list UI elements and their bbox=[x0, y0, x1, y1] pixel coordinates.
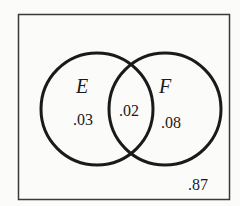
value-outside: .87 bbox=[188, 176, 208, 193]
value-intersection: .02 bbox=[119, 102, 139, 119]
value-f-only: .08 bbox=[161, 114, 181, 131]
value-e-only: .03 bbox=[73, 111, 93, 128]
set-label-e: E bbox=[75, 75, 88, 97]
set-label-f: F bbox=[158, 75, 172, 97]
venn-diagram: E F .03 .02 .08 .87 bbox=[0, 0, 240, 206]
